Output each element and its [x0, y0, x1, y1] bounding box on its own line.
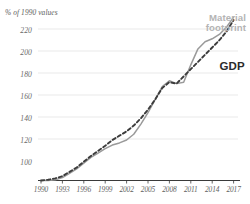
x-tick-label-2017: 2017 [221, 185, 247, 194]
line-material-footprint [41, 17, 234, 180]
chart-container: % of 1990 values 220 200 180 160 140 120… [0, 0, 250, 204]
legend-gdp: GDP [219, 60, 245, 72]
legend-material-footprint-line2: footprint [206, 23, 246, 33]
legend-material-footprint: Material footprint [206, 13, 246, 34]
line-gdp [41, 20, 234, 180]
